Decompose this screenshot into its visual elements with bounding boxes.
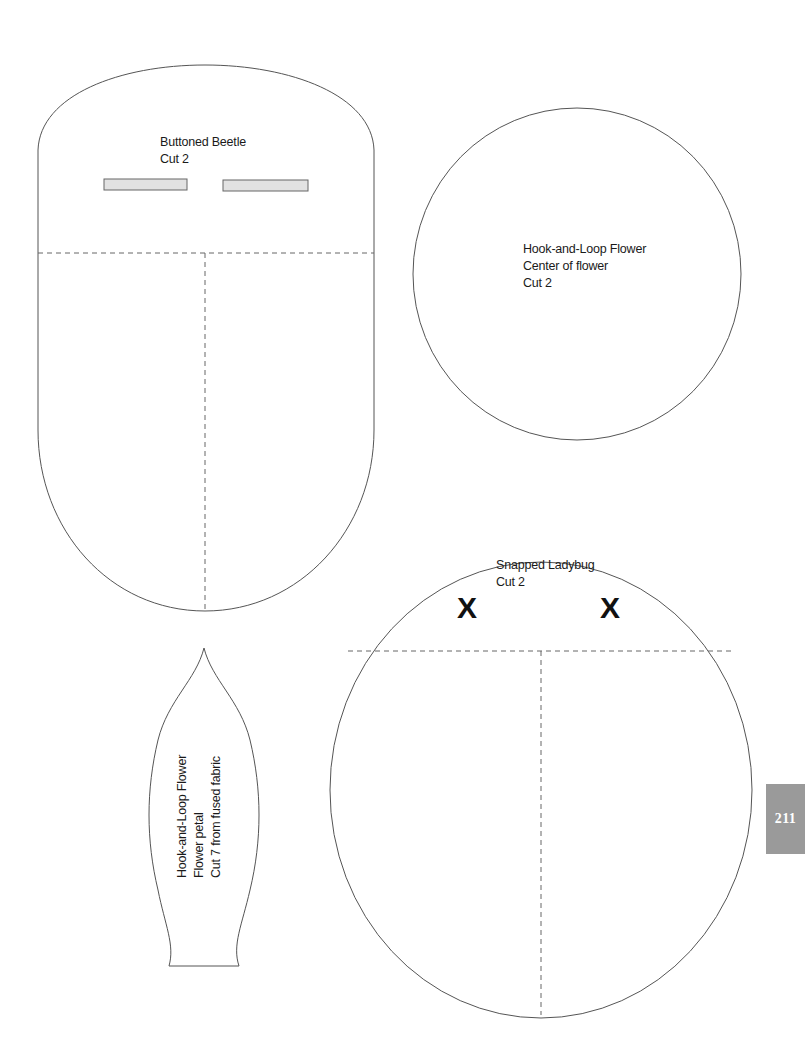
beetle-title: Buttoned Beetle — [160, 134, 246, 151]
snap-mark-right-icon: X — [600, 593, 620, 623]
buttonhole-right-icon — [223, 180, 308, 191]
flower-center-instruction: Cut 2 — [523, 275, 646, 292]
beetle-label: Buttoned Beetle Cut 2 — [160, 134, 246, 168]
pattern-page: Buttoned Beetle Cut 2 Hook-and-Loop Flow… — [0, 0, 805, 1039]
snap-mark-left-icon: X — [457, 593, 477, 623]
flower-center-title: Hook-and-Loop Flower — [523, 241, 646, 258]
flower-center-label: Hook-and-Loop Flower Center of flower Cu… — [523, 241, 646, 292]
ladybug-title: Snapped Ladybug — [496, 557, 594, 574]
flower-center-subtitle: Center of flower — [523, 258, 646, 275]
pattern-shapes — [0, 0, 805, 1039]
buttonhole-left-icon — [104, 179, 187, 190]
ladybug-label: Snapped Ladybug Cut 2 — [496, 557, 594, 591]
flower-petal-subtitle: Flower petal — [191, 755, 208, 878]
page-number: 211 — [775, 811, 797, 827]
flower-petal-label: Hook-and-Loop Flower Flower petal Cut 7 … — [174, 755, 225, 878]
beetle-instruction: Cut 2 — [160, 151, 246, 168]
flower-petal-title: Hook-and-Loop Flower — [174, 755, 191, 878]
flower-petal-instruction: Cut 7 from fused fabric — [208, 755, 225, 878]
ladybug-instruction: Cut 2 — [496, 574, 594, 591]
page-number-tab: 211 — [766, 784, 805, 854]
